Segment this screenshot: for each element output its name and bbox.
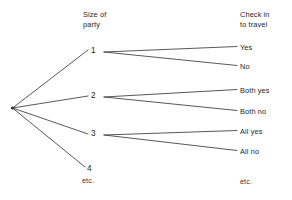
node-label-4: 4 — [87, 164, 92, 173]
heading-size-of-party: Size of party — [83, 10, 106, 30]
tree-branches — [0, 0, 292, 200]
edge-3-to-all-yes — [104, 131, 237, 136]
edge-3-to-all-no — [104, 135, 237, 151]
leaf-label-yes: Yes — [240, 43, 252, 53]
leaf-label-both-yes: Both yes — [240, 86, 270, 96]
edge-root-to-4 — [13, 108, 86, 167]
leaf-label-no: No — [240, 62, 250, 72]
edge-1-to-yes — [104, 47, 237, 53]
edge-2-to-both-yes — [104, 90, 237, 98]
node-label-2: 2 — [91, 91, 96, 100]
level1-etc-label: etc. — [82, 176, 94, 186]
edge-root-to-1 — [13, 50, 89, 108]
edge-2-to-both-no — [104, 97, 237, 111]
edge-root-to-3 — [13, 108, 89, 134]
leaf-label-all-yes: All yes — [240, 127, 262, 137]
edge-1-to-no — [104, 52, 237, 66]
leaf-label-both-no: Both no — [240, 107, 266, 117]
tree-diagram-figure: Size of party Check in to travel 1 2 3 4… — [0, 0, 292, 200]
node-label-3: 3 — [91, 129, 96, 138]
level2-etc-label: etc. — [240, 177, 252, 187]
leaf-label-all-no: All no — [240, 147, 259, 157]
heading-check-in-to-travel: Check in to travel — [240, 10, 270, 30]
node-label-1: 1 — [91, 46, 96, 55]
edge-root-to-2 — [13, 96, 89, 108]
